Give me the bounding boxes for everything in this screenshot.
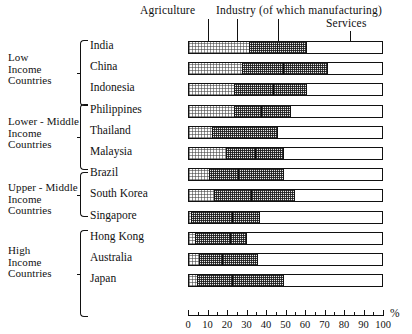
divider-agriculture-industry <box>199 254 200 265</box>
x-tick-0 <box>188 310 189 315</box>
services-leader <box>350 31 351 41</box>
divider-industry-services <box>306 84 307 95</box>
x-tick-30 <box>247 310 248 315</box>
segment-agriculture <box>189 127 212 138</box>
divider-industry-services <box>283 148 284 159</box>
divider-manufacturing <box>277 42 278 53</box>
income-group-brace-1 <box>80 40 88 106</box>
divider-agriculture-industry <box>209 169 210 180</box>
divider-manufacturing <box>232 275 233 286</box>
x-tick-10 <box>208 310 209 315</box>
divider-manufacturing <box>244 127 245 138</box>
segment-services <box>290 106 382 117</box>
divider-manufacturing <box>230 233 231 244</box>
x-tick-minor-95 <box>373 312 374 315</box>
divider-industry-services <box>290 106 291 117</box>
x-tick-minor-85 <box>354 312 355 315</box>
country-label-australia: Australia <box>90 251 132 263</box>
bar-malaysia <box>188 147 383 160</box>
x-tick-90 <box>364 310 365 315</box>
divider-agriculture-industry <box>212 127 213 138</box>
x-tick-40 <box>266 310 267 315</box>
segment-services <box>306 42 382 53</box>
bar-singapore <box>188 211 383 224</box>
stacked-bar-chart: AgricultureIndustry (of which manufactur… <box>0 0 412 334</box>
income-group-brace-2 <box>80 104 88 170</box>
divider-industry-services <box>246 233 247 244</box>
segment-services <box>283 148 382 159</box>
country-label-thailand: Thailand <box>90 124 131 136</box>
divider-manufacturing <box>283 63 284 74</box>
x-tick-50 <box>286 310 287 315</box>
segment-industry <box>234 84 306 95</box>
country-label-indonesia: Indonesia <box>90 81 135 93</box>
divider-industry-services <box>327 63 328 74</box>
segment-services <box>283 169 382 180</box>
segment-services <box>277 127 382 138</box>
x-tick-70 <box>325 310 326 315</box>
bar-japan <box>188 274 383 287</box>
x-tick-100 <box>383 310 384 315</box>
segment-industry <box>209 169 283 180</box>
bar-china <box>188 62 383 75</box>
bar-brazil <box>188 168 383 181</box>
x-tick-minor-35 <box>256 312 257 315</box>
manufacturing-leader <box>278 19 279 41</box>
divider-industry-services <box>306 42 307 53</box>
segment-services <box>246 233 382 244</box>
segment-industry <box>214 190 294 201</box>
segment-agriculture <box>189 169 209 180</box>
country-label-brazil: Brazil <box>90 166 118 178</box>
divider-manufacturing <box>222 254 223 265</box>
divider-manufacturing <box>255 148 256 159</box>
country-label-malaysia: Malaysia <box>90 145 132 157</box>
income-group-label-2: Lower - Middle Income Countries <box>8 116 79 151</box>
segment-services <box>259 212 382 223</box>
axis-unit-label: % <box>390 307 400 319</box>
segment-agriculture <box>189 190 214 201</box>
x-tick-60 <box>305 310 306 315</box>
segment-industry <box>242 63 328 74</box>
segment-industry <box>195 233 246 244</box>
country-label-china: China <box>90 60 117 72</box>
annotation-label-services: Services <box>326 17 367 29</box>
x-tick-minor-25 <box>237 312 238 315</box>
divider-industry-services <box>259 212 260 223</box>
country-label-singapore: Singapore <box>90 209 137 221</box>
country-label-philippines: Philippines <box>90 103 142 115</box>
country-label-south-korea: South Korea <box>90 187 148 199</box>
bar-indonesia <box>188 83 383 96</box>
bar-hong-kong <box>188 232 383 245</box>
bar-australia <box>188 253 383 266</box>
x-tick-80 <box>344 310 345 315</box>
x-tick-minor-15 <box>217 312 218 315</box>
x-tick-minor-55 <box>295 312 296 315</box>
divider-agriculture-industry <box>191 212 192 223</box>
segment-industry <box>197 275 283 286</box>
x-tick-minor-75 <box>334 312 335 315</box>
divider-manufacturing <box>273 84 274 95</box>
divider-agriculture-industry <box>195 233 196 244</box>
segment-services <box>294 190 382 201</box>
x-tick-minor-5 <box>198 312 199 315</box>
divider-industry-services <box>257 254 258 265</box>
divider-manufacturing <box>238 169 239 180</box>
divider-industry-services <box>277 127 278 138</box>
x-tick-minor-65 <box>315 312 316 315</box>
income-group-brace-4 <box>80 230 88 317</box>
bar-philippines <box>188 105 383 118</box>
divider-manufacturing <box>261 106 262 117</box>
divider-industry-services <box>283 275 284 286</box>
divider-agriculture-industry <box>234 106 235 117</box>
divider-industry-services <box>294 190 295 201</box>
divider-manufacturing <box>251 190 252 201</box>
x-tick-20 <box>227 310 228 315</box>
segment-services <box>257 254 382 265</box>
segment-services <box>306 84 382 95</box>
income-group-label-3: Upper - Middle Income Countries <box>8 182 78 217</box>
segment-agriculture <box>189 275 197 286</box>
segment-industry <box>199 254 258 265</box>
bar-india <box>188 41 383 54</box>
divider-manufacturing <box>232 212 233 223</box>
divider-agriculture-industry <box>214 190 215 201</box>
